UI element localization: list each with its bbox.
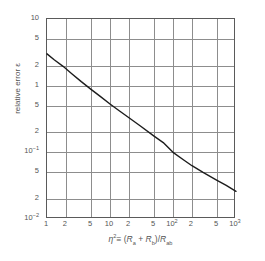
relative-error-curve-path <box>47 54 236 191</box>
data-curve <box>47 19 236 219</box>
y-tick-label: 2 <box>35 194 43 202</box>
y-axis-tick-labels: 105215210−15210−2 <box>0 18 43 218</box>
r-ab-subscript: ab <box>166 240 172 246</box>
equiv-open-paren: ≡ ( <box>116 234 126 244</box>
y-tick-label: 10−1 <box>24 148 43 156</box>
y-tick-label: 10−2 <box>24 214 43 222</box>
x-tick-label: 5 <box>214 220 218 228</box>
y-tick-label: 5 <box>35 168 43 176</box>
x-axis-tick-labels: 125102510225103 <box>46 220 235 232</box>
x-tick-label: 5 <box>151 220 155 228</box>
plus-operator: + <box>136 234 146 244</box>
x-tick-label: 1 <box>44 220 48 228</box>
plot-area <box>46 18 235 218</box>
x-tick-label: 2 <box>126 220 130 228</box>
y-tick-label: 2 <box>35 61 43 69</box>
y-tick-label: 10 <box>31 14 43 22</box>
x-tick-label: 103 <box>229 220 240 228</box>
figure-canvas: relative error ε 105215210−15210−2 12510… <box>0 0 265 261</box>
x-tick-label: 2 <box>63 220 67 228</box>
x-tick-label: 2 <box>189 220 193 228</box>
x-axis-title: η2≡ (Ra + Rb)/Rab <box>46 234 235 244</box>
x-tick-label: 5 <box>88 220 92 228</box>
y-tick-label: 2 <box>35 128 43 136</box>
y-tick-label: 5 <box>35 101 43 109</box>
y-tick-label: 1 <box>35 81 43 89</box>
y-tick-label: 5 <box>35 34 43 42</box>
x-tick-label: 102 <box>166 220 177 228</box>
x-tick-label: 10 <box>105 220 113 228</box>
